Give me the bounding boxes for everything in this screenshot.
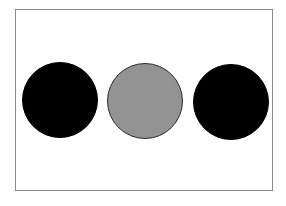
circle-right (193, 64, 269, 140)
circle-middle (107, 63, 183, 139)
circle-left (22, 62, 98, 138)
